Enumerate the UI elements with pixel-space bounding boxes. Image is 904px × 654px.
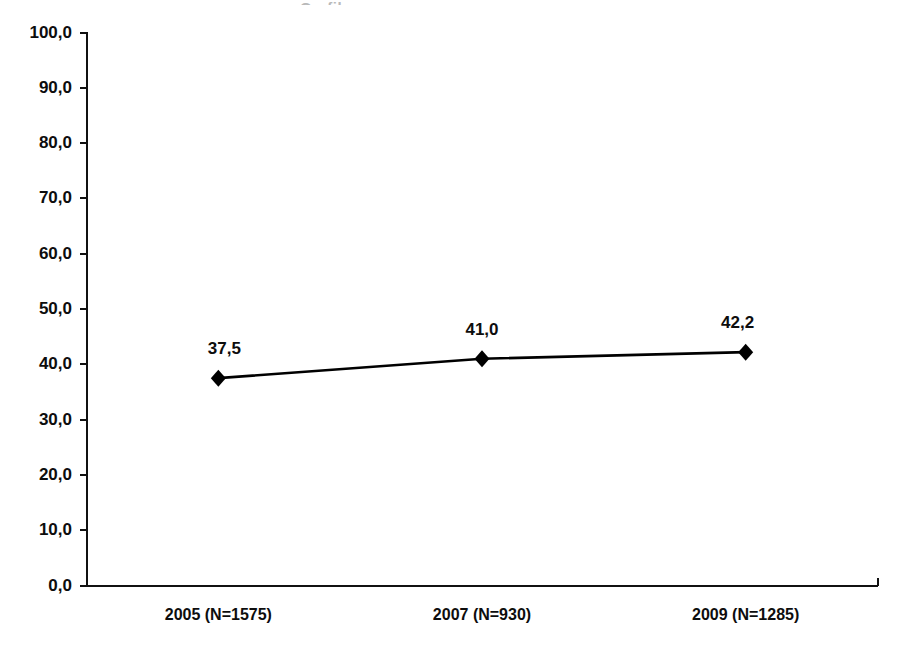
data-point-label: 37,5 — [184, 340, 264, 358]
data-point-marker — [738, 344, 753, 361]
x-axis-tick-label: 2005 (N=1575) — [118, 606, 318, 624]
x-axis-tick-label: 2009 (N=1285) — [646, 606, 846, 624]
y-axis-tick-label: 10,0 — [0, 521, 72, 538]
data-point-marker — [211, 370, 226, 387]
y-axis-tick-label: 40,0 — [0, 355, 72, 372]
y-axis-tick-label: 30,0 — [0, 411, 72, 428]
y-axis-tick-label: 60,0 — [0, 245, 72, 262]
y-axis-tick-label: 70,0 — [0, 189, 72, 206]
y-axis-tick-label: 0,0 — [0, 577, 72, 594]
y-axis-tick-label: 100,0 — [0, 24, 72, 41]
data-point-label: 42,2 — [698, 314, 778, 332]
data-point-marker — [475, 350, 490, 367]
y-axis-tick-label: 80,0 — [0, 134, 72, 151]
line-chart: Grafik 100,090,080,070,060,050,040,030,0… — [0, 0, 904, 654]
chart-series — [211, 344, 753, 387]
x-axis-tick-label: 2007 (N=930) — [382, 606, 582, 624]
chart-axes — [80, 32, 878, 586]
data-point-label: 41,0 — [442, 321, 522, 339]
y-axis-tick-label: 50,0 — [0, 300, 72, 317]
y-axis-tick-label: 20,0 — [0, 466, 72, 483]
y-axis-tick-label: 90,0 — [0, 79, 72, 96]
